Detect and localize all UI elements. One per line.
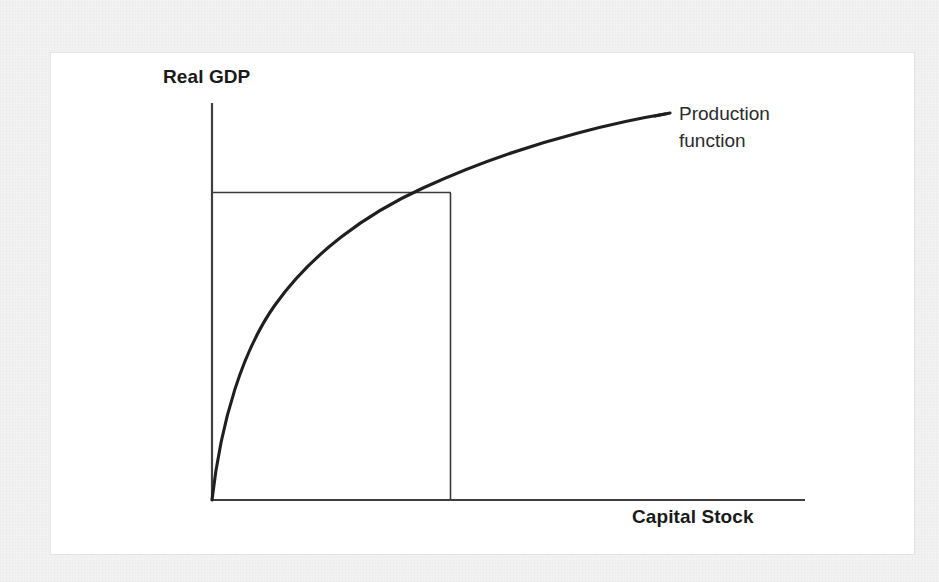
- production-function-label-line-1: Production: [679, 100, 770, 127]
- production-function-label-line-2: function: [679, 127, 770, 154]
- production-function-label: Production function: [679, 100, 770, 154]
- y-axis-label: Real GDP: [163, 66, 250, 88]
- figure-panel: [50, 52, 915, 555]
- chart-screenshot: Real GDP Capital Stock Production functi…: [0, 0, 939, 582]
- x-axis-label: Capital Stock: [632, 506, 754, 528]
